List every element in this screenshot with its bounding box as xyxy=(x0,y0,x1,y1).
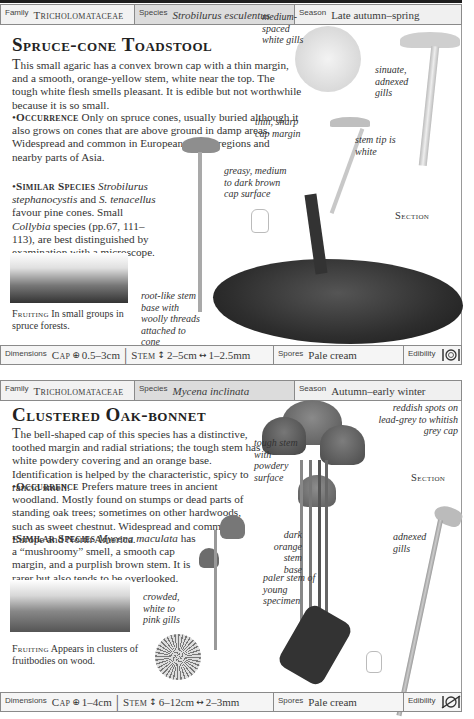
info-bar: Family Tricholomataceae Species Mycena i… xyxy=(0,380,462,401)
family-cell: Family Tricholomataceae xyxy=(1,381,135,400)
family-label: Family xyxy=(5,8,29,17)
spores-label: Spores xyxy=(278,349,303,358)
season-value: Autumn–early winter xyxy=(331,385,425,397)
stem-height-value: 6–12cm xyxy=(159,696,194,708)
annotation-cap-surface: greasy, medium to dark brown cap surface xyxy=(224,165,294,200)
divider: | xyxy=(124,346,127,364)
species-label: Species xyxy=(139,384,167,393)
section-label: Section xyxy=(395,210,429,221)
spores-value: Pale cream xyxy=(308,696,357,708)
annotation-gills: medium-spaced white gills xyxy=(262,11,310,46)
dimensions-bar: Dimensions Cap ⊕ 1–4cm | Stem ↕ 6–12cm ↔… xyxy=(0,692,462,712)
annotation-tough-stem: tough stem with powdery surface xyxy=(254,437,298,483)
cap-diameter-icon: ⊕ xyxy=(72,350,80,360)
similar-species-section: •Similar Species Mycena maculata has a “… xyxy=(12,532,202,585)
stem-height-icon: ↕ xyxy=(157,350,165,360)
page-top-rule xyxy=(0,0,462,3)
occurrence-heading: Occurrence xyxy=(16,480,79,492)
similar-species-name: S. tenacellus xyxy=(99,193,156,205)
stem-height-icon: ↕ xyxy=(149,697,157,707)
family-value: Tricholomataceae xyxy=(34,385,124,397)
season-cell: Season Autumn–early winter xyxy=(295,381,461,400)
season-label: Season xyxy=(299,384,326,393)
description: This small agaric has a convex brown cap… xyxy=(12,58,302,112)
hand-scale-icon xyxy=(366,651,382,673)
frame-border xyxy=(461,401,462,692)
cap-label: Cap xyxy=(52,349,70,361)
similar-species-name: Mycena maculata xyxy=(98,532,178,544)
dimensions-cell: Dimensions Cap ⊕ 1–4cm | Stem ↕ 6–12cm ↔… xyxy=(1,693,274,711)
small-cap-illustration xyxy=(330,117,370,127)
stem-height-value: 2–5cm xyxy=(167,349,197,361)
similar-genus-name: Collybia xyxy=(12,220,51,232)
wood-illustration xyxy=(276,602,354,688)
species-value: Strobilurus esculentus xyxy=(172,9,270,21)
occurrence-heading: Occurrence xyxy=(16,111,79,123)
dimensions-bar: Dimensions Cap ⊕ 0.5–3cm | Stem ↕ 2–5cm … xyxy=(0,345,462,365)
section-cap-illustration xyxy=(400,32,460,48)
young-cap-illustration xyxy=(220,515,245,539)
cap-value: 0.5–3cm xyxy=(82,349,120,361)
species-title: Clustered Oak-bonnet xyxy=(12,404,206,426)
stem-width-value: 2–3mm xyxy=(206,696,240,708)
dimensions-cell: Dimensions Cap ⊕ 0.5–3cm | Stem ↕ 2–5cm … xyxy=(1,346,274,364)
stem-width-value: 1–2.5mm xyxy=(208,349,250,361)
spores-cell: Spores Pale cream xyxy=(274,693,404,711)
edibility-label: Edibility xyxy=(408,696,436,705)
stem-illustration xyxy=(198,152,202,312)
cap-diameter-icon: ⊕ xyxy=(72,697,80,707)
similar-text: and xyxy=(77,193,99,205)
dimensions-label: Dimensions xyxy=(5,349,47,358)
stem-label: Stem xyxy=(123,696,147,708)
annotation-spots: reddish spots on lead-grey to whitish gr… xyxy=(374,402,458,437)
stem-width-icon: ↔ xyxy=(196,697,204,707)
species-value: Mycena inclinata xyxy=(172,385,249,397)
season-cell: Season Late autumn–spring xyxy=(295,5,461,24)
fruiting-heading: Fruiting xyxy=(12,643,49,654)
annotation-margin: thin, sharp cap margin xyxy=(255,116,315,139)
inedible-icon xyxy=(441,695,461,709)
info-bar: Family Tricholomataceae Species Strobilu… xyxy=(0,4,462,25)
species-entry-clustered-oak-bonnet: Family Tricholomataceae Species Mycena i… xyxy=(0,380,462,719)
dimensions-label: Dimensions xyxy=(5,696,47,705)
edible-icon xyxy=(441,348,461,362)
stem-label: Stem xyxy=(131,349,155,361)
frame-border xyxy=(461,25,462,345)
similar-heading: Similar Species xyxy=(16,180,95,192)
divider: | xyxy=(116,693,119,711)
fruiting-heading: Fruiting xyxy=(12,308,49,319)
fruiting-caption: Fruiting Appears in clusters of fruitbod… xyxy=(12,643,152,667)
cap-illustration xyxy=(320,425,365,465)
similar-species-section: •Similar Species Strobilurus stephanocys… xyxy=(12,180,160,259)
intro-text: This small agaric has a convex brown cap… xyxy=(12,58,302,112)
spruce-cone-illustration xyxy=(213,259,463,344)
family-value: Tricholomataceae xyxy=(34,9,124,21)
annotation-adnexed: adnexed gills xyxy=(393,531,437,554)
family-cell: Family Tricholomataceae xyxy=(1,5,135,24)
spores-cell: Spores Pale cream xyxy=(274,346,404,364)
annotation-paler-stem: paler stem of young specimen xyxy=(263,572,323,607)
edibility-label: Edibility xyxy=(408,349,436,358)
annotation-crowded-gills: crowded, white to pink gills xyxy=(143,591,193,626)
annotation-stem-base: root-like stem base with woolly threads … xyxy=(141,290,207,348)
species-entry-spruce-cone-toadstool: Family Tricholomataceae Species Strobilu… xyxy=(0,4,462,365)
annotation-sinuate: sinuate, adnexed gills xyxy=(375,64,427,99)
stem-width-icon: ↔ xyxy=(199,350,207,360)
similar-text: favour pine cones. Small xyxy=(12,206,123,218)
species-cell: Species Mycena inclinata xyxy=(135,381,295,400)
spores-value: Pale cream xyxy=(308,349,357,361)
family-label: Family xyxy=(5,384,29,393)
brown-cap-illustration xyxy=(182,137,220,153)
fruiting-photo xyxy=(10,580,130,632)
edibility-cell: Edibility xyxy=(404,346,461,364)
species-title: Spruce-cone Toadstool xyxy=(12,34,212,56)
cap-value: 1–4cm xyxy=(82,696,112,708)
section-label: Section xyxy=(411,472,445,483)
cap-label: Cap xyxy=(52,696,70,708)
fruiting-caption: Fruiting In small groups in spruce fores… xyxy=(12,308,137,332)
season-value: Late autumn–spring xyxy=(331,9,419,21)
annotation-stem-tip: stem tip is white xyxy=(355,134,410,157)
species-label: Species xyxy=(139,8,167,17)
annotation-dark-base: dark orange stem base xyxy=(264,529,302,575)
fruiting-photo xyxy=(10,253,128,303)
